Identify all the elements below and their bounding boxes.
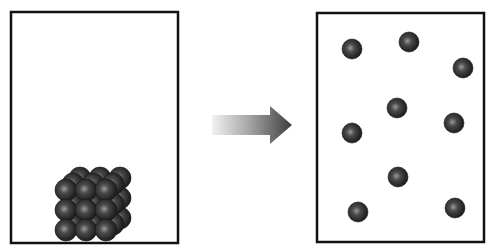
- particle: [387, 98, 407, 118]
- particle: [445, 198, 465, 218]
- particle: [55, 219, 77, 241]
- solid-to-gas-diagram: [0, 0, 490, 247]
- particle: [95, 219, 117, 241]
- particle: [388, 167, 408, 187]
- particle: [342, 123, 362, 143]
- particle: [95, 179, 117, 201]
- particle: [342, 39, 362, 59]
- particle: [95, 199, 117, 221]
- particle: [55, 179, 77, 201]
- particle: [348, 202, 368, 222]
- particle: [75, 179, 97, 201]
- right-arrow-icon: [212, 106, 292, 144]
- particle: [444, 113, 464, 133]
- packed-particle-cluster: [55, 167, 131, 241]
- particle: [453, 58, 473, 78]
- particle: [75, 219, 97, 241]
- particle: [399, 32, 419, 52]
- particle: [55, 199, 77, 221]
- particle: [75, 199, 97, 221]
